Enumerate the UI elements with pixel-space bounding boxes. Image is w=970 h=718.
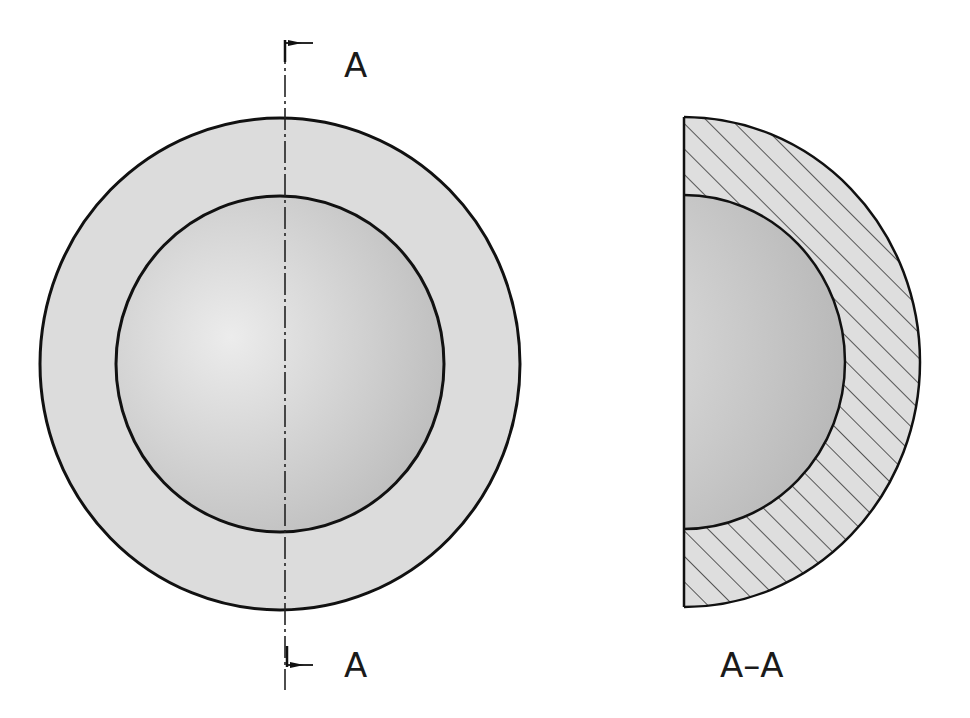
section-arrow-bottom-icon	[287, 646, 313, 668]
diagram-svg	[0, 0, 970, 718]
inner-sphere	[116, 196, 444, 532]
section-label-top: A	[344, 48, 367, 82]
section-label-bottom: A	[344, 648, 367, 682]
diagram-canvas: A A A–A	[0, 0, 970, 718]
section-arrow-top-icon	[285, 40, 313, 62]
front-view	[40, 40, 520, 690]
section-view-title: A–A	[720, 648, 784, 682]
